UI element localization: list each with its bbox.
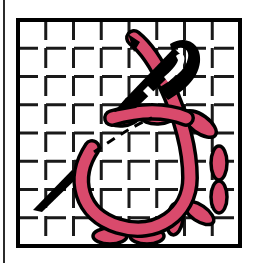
- diagram-canvas: [0, 0, 255, 263]
- embroidery-diagram-figure: Chain stitch embroidery diagram Sewing n…: [0, 0, 255, 263]
- chain-stitch-oval: [211, 146, 227, 180]
- chain-stitch-oval: [211, 181, 227, 213]
- thread-free-end: [112, 112, 186, 118]
